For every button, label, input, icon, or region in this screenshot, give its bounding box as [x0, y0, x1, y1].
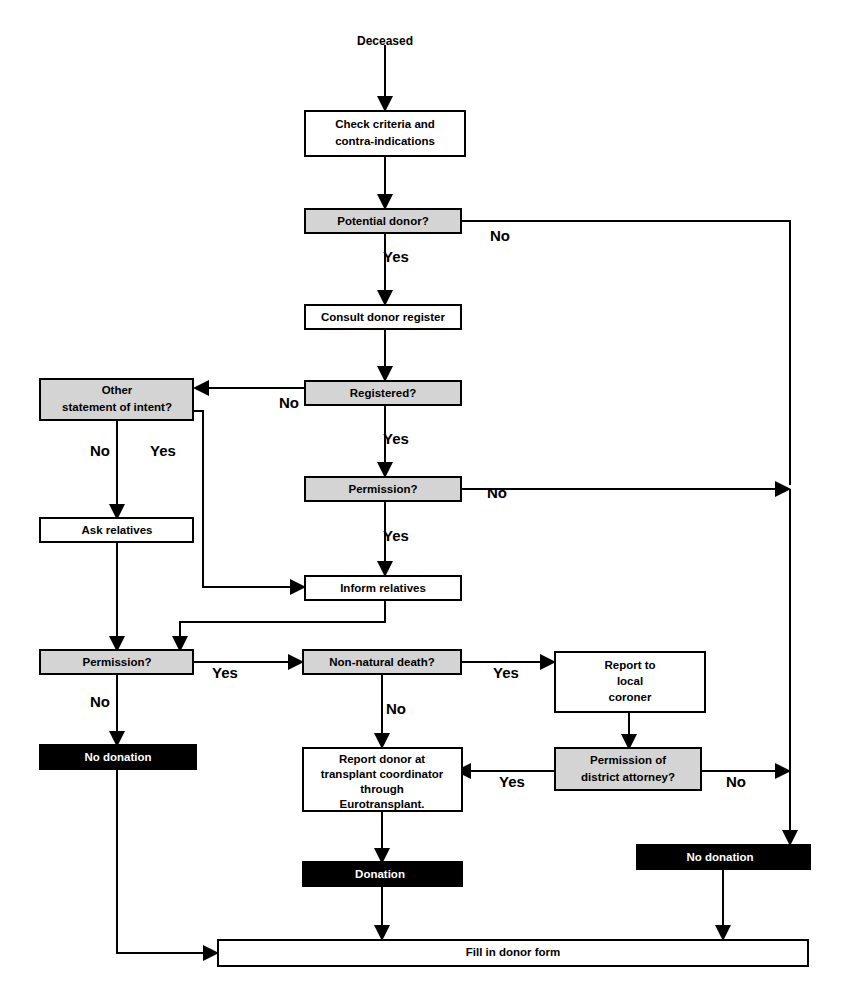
- node-non-natural-death-label: Non-natural death?: [329, 656, 434, 668]
- arrowhead-report-coroner: [540, 654, 556, 670]
- node-inform-relatives-label: Inform relatives: [340, 582, 426, 594]
- node-no-donation-left-label: No donation: [84, 751, 151, 763]
- edge-inform-to-permission-rel: [180, 600, 385, 644]
- arrowhead-no-donation-right: [782, 830, 798, 846]
- node-fill-form-label: Fill in donor form: [466, 946, 561, 958]
- node-inform-relatives[interactable]: Inform relatives: [305, 576, 461, 600]
- node-permission-da-line2: district attorney?: [581, 771, 675, 783]
- edge-label-perm-rel-yes: Yes: [212, 664, 238, 681]
- edges-layer: [109, 45, 798, 961]
- node-permission-registered[interactable]: Permission?: [305, 477, 461, 501]
- edge-label-registered-yes: Yes: [383, 430, 409, 447]
- arrowhead-inform-relatives-from-other: [290, 579, 306, 595]
- edge-label-other-no: No: [90, 442, 110, 459]
- node-ask-relatives-label: Ask relatives: [82, 524, 153, 536]
- node-donation[interactable]: Donation: [303, 862, 462, 886]
- node-permission-relatives-label: Permission?: [82, 656, 151, 668]
- node-permission-relatives[interactable]: Permission?: [40, 650, 193, 674]
- edge-other-yes-to-inform: [193, 411, 298, 587]
- arrowhead-registered: [377, 366, 393, 382]
- edge-label-potential-yes: Yes: [383, 248, 409, 265]
- node-report-donor-transplant[interactable]: Report donor at transplant coordinator t…: [303, 748, 462, 811]
- node-potential-donor[interactable]: Potential donor?: [305, 209, 461, 233]
- node-ask-relatives[interactable]: Ask relatives: [40, 518, 193, 542]
- arrowhead-fillform-from-left: [203, 945, 219, 961]
- node-report-donor-line3: through: [360, 783, 403, 795]
- edge-label-permission-yes: Yes: [383, 527, 409, 544]
- edge-nodonation-left-to-fillform: [117, 769, 211, 953]
- edge-label-potential-no: No: [490, 227, 510, 244]
- flowchart-canvas: Deceased Check criteria and contra-indic…: [0, 0, 843, 991]
- arrowhead-permission-registered: [377, 462, 393, 478]
- arrowhead-report-donor: [374, 733, 390, 749]
- edge-label-nonnatural-no: No: [386, 700, 406, 717]
- node-permission-district-attorney[interactable]: Permission of district attorney?: [555, 748, 701, 790]
- arrowhead-fillform-from-nodonation: [715, 925, 731, 941]
- node-coroner-line1: Report to: [604, 659, 655, 671]
- edge-label-permission-no: No: [487, 484, 507, 501]
- node-permission-registered-label: Permission?: [348, 483, 417, 495]
- edge-label-registered-no: No: [279, 394, 299, 411]
- node-no-donation-right[interactable]: No donation: [637, 845, 810, 869]
- node-other-statement-line2: statement of intent?: [62, 401, 172, 413]
- node-check-criteria-line1: Check criteria and: [335, 118, 435, 130]
- arrowhead-consult-register: [377, 290, 393, 306]
- arrowhead-right-bus-da: [775, 763, 791, 779]
- arrowhead-right-bus-permission: [775, 481, 791, 497]
- node-other-statement-line1: Other: [102, 384, 133, 396]
- node-report-local-coroner[interactable]: Report to local coroner: [555, 652, 705, 712]
- edge-label-other-yes: Yes: [150, 442, 176, 459]
- node-potential-donor-label: Potential donor?: [337, 215, 428, 227]
- node-start-label: Deceased: [357, 34, 413, 48]
- node-check-criteria-line2: contra-indications: [335, 135, 435, 147]
- node-no-donation-left[interactable]: No donation: [40, 745, 196, 769]
- arrowhead-other-statement: [193, 380, 209, 396]
- edge-label-nonnatural-yes: Yes: [493, 664, 519, 681]
- node-other-statement-of-intent[interactable]: Other statement of intent?: [40, 379, 193, 420]
- nodes-layer: Deceased Check criteria and contra-indic…: [40, 34, 810, 966]
- edge-label-da-yes: Yes: [499, 773, 525, 790]
- node-registered-label: Registered?: [350, 387, 416, 399]
- node-consult-register-label: Consult donor register: [321, 311, 445, 323]
- node-non-natural-death[interactable]: Non-natural death?: [303, 650, 461, 674]
- node-donation-label: Donation: [355, 868, 405, 880]
- node-check-criteria[interactable]: Check criteria and contra-indications: [305, 111, 465, 156]
- arrowhead-fillform-from-donation: [374, 925, 390, 941]
- edge-label-perm-rel-no: No: [90, 693, 110, 710]
- flowchart-diagram: Deceased Check criteria and contra-indic…: [0, 0, 843, 991]
- node-report-donor-line1: Report donor at: [339, 753, 425, 765]
- edge-potential-no-to-right-bus: [461, 221, 790, 485]
- node-coroner-line2: local: [617, 675, 643, 687]
- node-report-donor-line4: Eurotransplant.: [340, 798, 425, 810]
- edge-label-da-no: No: [726, 773, 746, 790]
- node-permission-da-line1: Permission of: [590, 754, 666, 766]
- arrowhead-inform-relatives: [377, 561, 393, 577]
- node-no-donation-right-label: No donation: [686, 851, 753, 863]
- arrowhead-check-criteria: [377, 96, 393, 112]
- node-report-donor-line2: transplant coordinator: [321, 768, 444, 780]
- node-registered[interactable]: Registered?: [305, 381, 461, 405]
- arrowhead-non-natural-death: [288, 654, 304, 670]
- node-fill-in-donor-form[interactable]: Fill in donor form: [218, 940, 808, 966]
- arrowhead-potential-donor: [377, 194, 393, 210]
- node-coroner-line3: coroner: [609, 691, 652, 703]
- node-consult-donor-register[interactable]: Consult donor register: [305, 305, 461, 329]
